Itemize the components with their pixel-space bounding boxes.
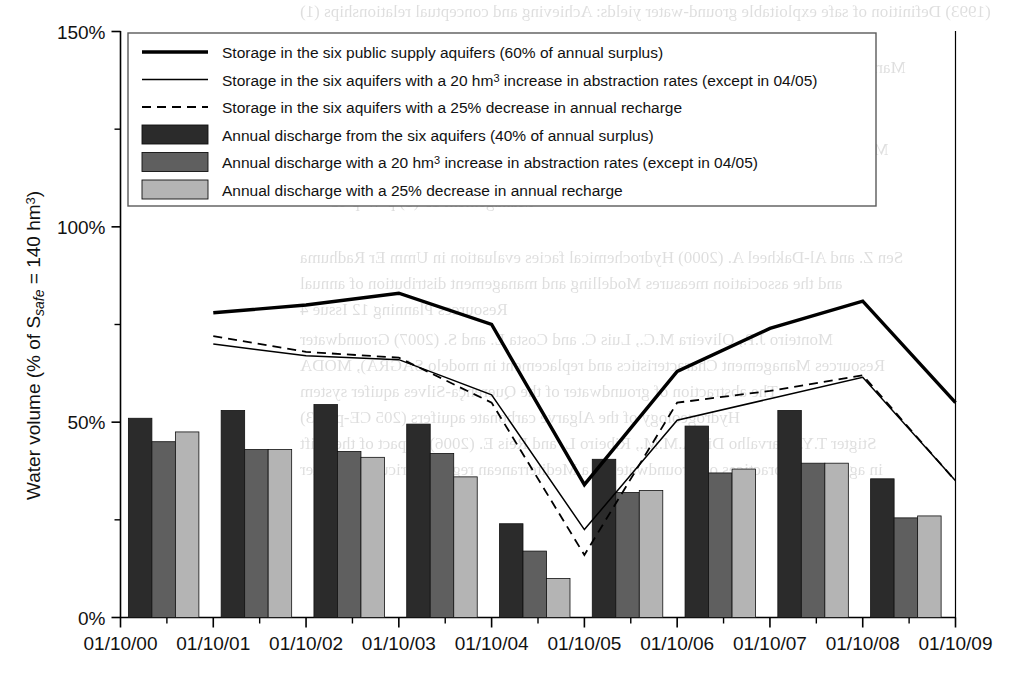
bar	[825, 463, 849, 617]
y-tick-label: 0%	[78, 608, 106, 629]
bar	[732, 469, 756, 617]
bar	[871, 479, 895, 618]
bar	[128, 418, 152, 617]
bar	[407, 424, 431, 617]
chart-svg: 0%50%100%150% 01/10/0001/10/0101/10/0201…	[0, 0, 1016, 679]
y-axis-ticks	[112, 32, 121, 618]
legend-swatch	[142, 125, 208, 144]
bar	[500, 524, 524, 618]
bar	[685, 426, 709, 617]
bar	[314, 405, 338, 618]
x-tick-label: 01/10/07	[733, 633, 807, 654]
svg-text:Water volume (% of Ssafe = 140: Water volume (% of Ssafe = 140 hm3)	[23, 191, 47, 500]
bar	[894, 518, 918, 618]
bar	[454, 477, 478, 618]
y-axis-title-head: Water volume (% of S	[23, 316, 44, 500]
bar	[152, 442, 176, 618]
y-axis-title: Water volume (% of Ssafe = 140 hm3)	[23, 191, 47, 500]
y-axis-title-tail: )	[23, 191, 44, 197]
x-tick-label: 01/10/09	[919, 633, 993, 654]
legend-label: Annual discharge with a 25% decrease in …	[222, 182, 623, 199]
x-tick-label: 01/10/06	[640, 633, 714, 654]
chart-figure: 0%50%100%150% 01/10/0001/10/0101/10/0201…	[0, 0, 1016, 679]
bar	[268, 450, 292, 618]
bar	[801, 463, 825, 617]
legend-swatch	[142, 153, 208, 172]
x-tick-label: 01/10/05	[547, 633, 621, 654]
bar	[221, 410, 245, 617]
x-tick-label: 01/10/04	[455, 633, 529, 654]
x-tick-label: 01/10/03	[362, 633, 436, 654]
y-tick-label: 150%	[57, 22, 106, 43]
y-axis-title-subscript: safe	[31, 289, 47, 316]
y-axis-title-superscript: 3	[23, 197, 38, 204]
x-axis-tick-labels: 01/10/0001/10/0101/10/0201/10/0301/10/04…	[84, 633, 993, 654]
bar	[592, 459, 616, 617]
x-axis-ticks	[121, 618, 956, 628]
y-tick-label: 100%	[57, 217, 106, 238]
x-tick-label: 01/10/02	[269, 633, 343, 654]
legend-label: Annual discharge with a 20 hm3 increase …	[222, 154, 758, 171]
bar	[361, 457, 385, 617]
chart-legend: Storage in the six public supply aquifer…	[128, 33, 876, 206]
bar	[918, 516, 942, 618]
legend-label: Storage in the six public supply aquifer…	[222, 44, 663, 61]
bar	[175, 432, 199, 618]
bar	[523, 551, 547, 617]
bar	[337, 451, 361, 617]
y-tick-label: 50%	[67, 412, 105, 433]
legend-label: Annual discharge from the six aquifers (…	[222, 127, 654, 144]
x-tick-label: 01/10/01	[176, 633, 250, 654]
legend-swatch	[142, 180, 208, 199]
x-tick-label: 01/10/08	[826, 633, 900, 654]
bar	[709, 473, 733, 618]
bar	[639, 491, 663, 618]
y-axis-title-mid: = 140 hm	[23, 204, 44, 289]
legend-label: Storage in the six aquifers with a 25% d…	[222, 99, 682, 116]
y-axis-tick-labels: 0%50%100%150%	[57, 22, 106, 629]
bar	[547, 578, 571, 617]
bar	[616, 492, 640, 617]
x-tick-label: 01/10/00	[84, 633, 158, 654]
bar	[430, 453, 454, 617]
bar	[245, 450, 268, 618]
bar	[778, 410, 802, 617]
legend-label: Storage in the six aquifers with a 20 hm…	[222, 72, 817, 89]
